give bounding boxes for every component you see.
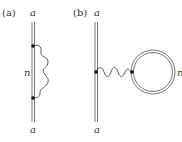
panel-a-intermediate-label: n	[24, 67, 30, 78]
panel-a-wavy-line	[33, 45, 48, 98]
feynman-diagrams: (a) a n a (b) a n a	[0, 0, 182, 142]
panel-a-top-state-label: a	[30, 7, 36, 18]
panel-b-vertex-left-icon	[94, 70, 98, 74]
panel-b-closed-loop	[131, 50, 175, 94]
panel-b: (b) a n a	[73, 7, 182, 135]
panel-a-double-propagator	[32, 22, 35, 122]
panel-b-label: (b)	[73, 7, 87, 18]
panel-b-wavy-line	[96, 68, 131, 77]
panel-b-vertex-loop-icon	[130, 70, 134, 74]
panel-a: (a) a n a	[2, 7, 48, 135]
panel-a-vertex-top-icon	[31, 44, 35, 48]
panel-a-vertex-bottom-icon	[31, 96, 35, 100]
panel-b-loop-label: n	[177, 67, 182, 78]
panel-a-label: (a)	[2, 7, 16, 18]
panel-a-bottom-state-label: a	[30, 124, 36, 135]
panel-b-bottom-state-label: a	[94, 124, 100, 135]
panel-b-top-state-label: a	[94, 7, 100, 18]
